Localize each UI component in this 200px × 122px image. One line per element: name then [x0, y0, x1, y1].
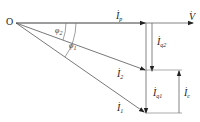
- ip-label: ·Ip: [116, 11, 122, 22]
- phi2-label: φ2: [55, 27, 62, 36]
- phi2-angle-arc: [63, 23, 66, 40]
- ic-label: ·Ic: [184, 88, 190, 99]
- i2-label: ·I2: [117, 69, 123, 80]
- v-label: ·V: [189, 12, 195, 22]
- i1-vector-line: [16, 23, 144, 112]
- i2-vector-line: [16, 23, 145, 70]
- iq1-label: ·Iq1: [153, 88, 162, 99]
- i1-label: ·I1: [117, 103, 123, 114]
- iq2-label: ·Iq2: [157, 37, 166, 48]
- origin-label: O: [6, 17, 13, 27]
- phasor-diagram-canvas: [0, 0, 200, 122]
- phi1-angle-arc: [65, 23, 76, 57]
- phi1-label: φ1: [69, 42, 76, 51]
